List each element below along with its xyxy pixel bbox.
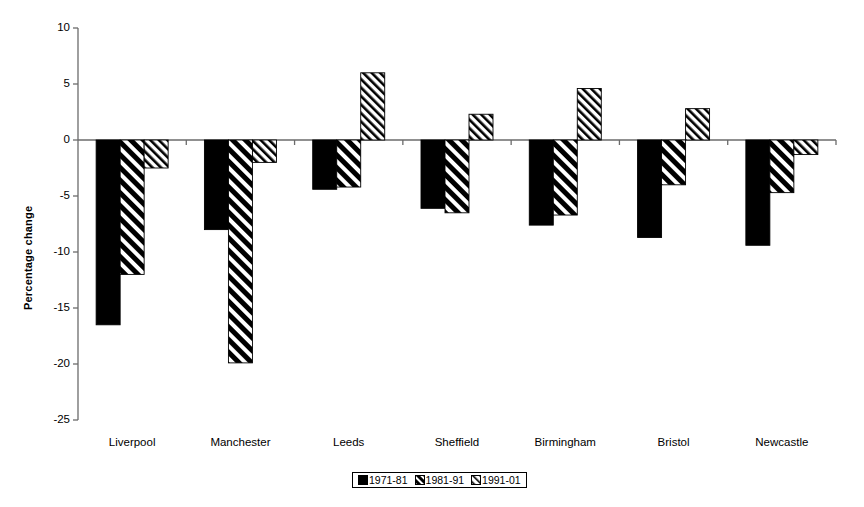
bar [553, 140, 577, 215]
bar [445, 140, 469, 213]
bar [204, 140, 228, 230]
x-axis-category-label: Birmingham [511, 436, 619, 448]
legend-label: 1981-91 [426, 475, 465, 485]
bar [361, 73, 385, 140]
bar [638, 140, 662, 237]
axis-lines [73, 28, 836, 420]
x-axis-category-label: Sheffield [403, 436, 511, 448]
legend-label: 1991-01 [482, 475, 521, 485]
legend-item: 1981-91 [415, 475, 465, 485]
legend-swatch-icon [415, 475, 425, 485]
legend: 1971-811981-911991-01 [352, 472, 527, 488]
bar [337, 140, 361, 187]
legend-item: 1971-81 [358, 475, 408, 485]
bar [746, 140, 770, 245]
bar [577, 88, 601, 140]
x-axis-category-label: Newcastle [728, 436, 836, 448]
bar [686, 109, 710, 140]
bar [421, 140, 445, 208]
legend-swatch-icon [358, 475, 368, 485]
x-axis-category-label: Leeds [295, 436, 403, 448]
legend-item: 1991-01 [471, 475, 521, 485]
bar [662, 140, 686, 185]
bar [770, 140, 794, 193]
x-axis-category-label: Liverpool [78, 436, 186, 448]
bar [144, 140, 168, 168]
bar [794, 140, 818, 155]
bar [469, 114, 493, 140]
bar [313, 140, 337, 189]
bar [529, 140, 553, 225]
bar [120, 140, 144, 274]
bar [228, 140, 252, 363]
bar [96, 140, 120, 325]
x-axis-category-label: Manchester [186, 436, 294, 448]
x-axis-category-label: Bristol [619, 436, 727, 448]
bars-layer [96, 73, 818, 363]
legend-label: 1971-81 [369, 475, 408, 485]
bar [252, 140, 276, 162]
legend-swatch-icon [471, 475, 481, 485]
plot-area [0, 0, 864, 507]
bar-chart: Percentage change 1050-5-10-15-20-25 Liv… [0, 0, 864, 507]
